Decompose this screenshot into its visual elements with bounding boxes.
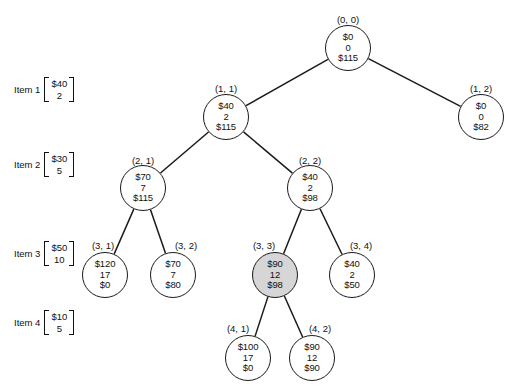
tree-node: $707$115 <box>120 165 166 211</box>
item-weight: 10 <box>54 254 65 266</box>
tree-edge <box>246 59 328 105</box>
tree-edge <box>244 132 293 173</box>
tree-node: $9012$98 <box>252 252 298 298</box>
item-label: Item 1 <box>14 84 40 95</box>
node-bound: $115 <box>338 53 358 64</box>
node-bound: $82 <box>473 122 489 133</box>
item-vector: $105 <box>44 310 74 335</box>
node-coordinate-label: (2, 2) <box>299 155 321 166</box>
node-coordinate-label: (1, 1) <box>215 83 237 94</box>
node-bound: $98 <box>267 280 283 291</box>
tree-node: $9012$90 <box>289 335 335 381</box>
tree-node: $00$115 <box>325 25 371 71</box>
node-coordinate-label: (4, 1) <box>227 323 249 334</box>
node-coordinate-label: (4, 2) <box>309 323 331 334</box>
node-bound: $80 <box>165 280 181 291</box>
item-weight: 5 <box>57 323 62 335</box>
tree-edge <box>320 209 342 255</box>
item-vector: $402 <box>44 77 74 102</box>
item-value: $30 <box>51 153 67 165</box>
tree-node: $402$115 <box>203 94 249 140</box>
item-value: $40 <box>51 78 67 90</box>
item-row: Item 4$105 <box>14 310 74 335</box>
node-coordinate-label: (3, 2) <box>175 240 197 251</box>
tree-edge <box>368 59 460 107</box>
node-bound: $98 <box>302 193 318 204</box>
item-weight: 5 <box>57 165 62 177</box>
item-row: Item 3$5010 <box>14 241 74 266</box>
tree-node: $00$82 <box>458 94 504 140</box>
item-vector: $5010 <box>44 241 74 266</box>
node-bound: $0 <box>243 363 253 374</box>
tree-node: $402$98 <box>287 165 333 211</box>
tree-edge <box>284 296 302 337</box>
item-value: $50 <box>51 242 67 254</box>
tree-edge <box>284 209 302 253</box>
node-bound: $50 <box>344 280 360 291</box>
tree-edge <box>150 210 165 254</box>
item-weight: 2 <box>57 90 62 102</box>
tree-edges <box>0 0 514 388</box>
item-label: Item 2 <box>14 159 40 170</box>
item-row: Item 2$305 <box>14 152 74 177</box>
node-bound: $90 <box>304 363 320 374</box>
tree-edge <box>114 209 134 254</box>
node-coordinate-label: (1, 2) <box>470 83 492 94</box>
tree-edge <box>160 132 208 173</box>
tree-node: $12017$0 <box>82 252 128 298</box>
node-coordinate-label: (2, 1) <box>132 155 154 166</box>
knapsack-tree-diagram: (0, 0)$00$115(1, 1)$402$115(1, 2)$00$82(… <box>0 0 514 388</box>
node-coordinate-label: (3, 1) <box>92 240 114 251</box>
item-row: Item 1$402 <box>14 77 74 102</box>
item-vector: $305 <box>44 152 74 177</box>
item-value: $10 <box>51 311 67 323</box>
node-coordinate-label: (3, 3) <box>253 240 275 251</box>
tree-node: $10017$0 <box>225 335 271 381</box>
tree-node: $707$80 <box>150 252 196 298</box>
item-label: Item 4 <box>14 317 40 328</box>
node-bound: $115 <box>133 193 153 204</box>
node-bound: $0 <box>100 280 110 291</box>
node-coordinate-label: (0, 0) <box>337 14 359 25</box>
tree-node: $402$50 <box>329 252 375 298</box>
tree-edge <box>255 297 268 336</box>
node-bound: $115 <box>216 122 236 133</box>
item-label: Item 3 <box>14 248 40 259</box>
node-coordinate-label: (3, 4) <box>350 240 372 251</box>
